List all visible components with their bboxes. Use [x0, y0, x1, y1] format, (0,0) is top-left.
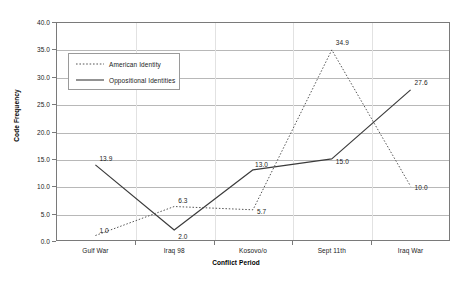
x-tick-label: Kosovo/o	[239, 247, 267, 254]
data-point-label: 5.7	[257, 208, 266, 215]
data-point-label: 27.6	[415, 79, 428, 86]
gridline	[57, 133, 449, 134]
y-tick-mark	[52, 159, 56, 160]
chart-canvas: Code Frequency 0.05.010.015.020.025.030.…	[0, 0, 472, 285]
data-point-label: 34.9	[336, 39, 349, 46]
gridline	[57, 187, 449, 188]
x-tick-label: Iraq War	[398, 247, 423, 254]
x-axis-title: Conflict Period	[0, 259, 472, 266]
y-tick-mark	[52, 77, 56, 78]
y-axis: 0.05.010.015.020.025.030.035.040.0	[0, 0, 54, 285]
legend-label: Oppositional Identities	[109, 77, 175, 84]
x-tick-mark	[135, 241, 136, 245]
data-point-label: 13.9	[99, 155, 112, 162]
y-tick-label: 35.0	[37, 46, 50, 53]
y-tick-mark	[52, 49, 56, 50]
y-tick-label: 25.0	[37, 101, 50, 108]
y-tick-mark	[52, 186, 56, 187]
gridline	[57, 50, 449, 51]
x-tick-label: Sept 11th	[318, 247, 346, 254]
data-point-label: 15.0	[336, 158, 349, 165]
chart-legend: American Identity Oppositional Identitie…	[68, 53, 180, 90]
gridline	[57, 160, 449, 161]
y-tick-mark	[52, 132, 56, 133]
data-point-label: 13.0	[255, 161, 268, 168]
data-point-label: 10.0	[415, 184, 428, 191]
data-point-label: 1.0	[99, 227, 108, 234]
y-tick-mark	[52, 214, 56, 215]
y-tick-label: 40.0	[37, 19, 50, 26]
y-tick-mark	[52, 104, 56, 105]
y-tick-label: 10.0	[37, 183, 50, 190]
data-point-label: 2.0	[178, 233, 187, 240]
y-tick-label: 5.0	[41, 210, 50, 217]
x-tick-mark	[214, 241, 215, 245]
data-point-label: 6.3	[178, 197, 187, 204]
gridline	[57, 105, 449, 106]
dotted-line-icon	[75, 60, 105, 68]
gridline	[57, 215, 449, 216]
solid-line-icon	[75, 76, 105, 84]
y-tick-label: 20.0	[37, 128, 50, 135]
category-separator	[215, 23, 216, 240]
legend-label: American Identity	[109, 61, 161, 68]
y-tick-mark	[52, 241, 56, 242]
y-tick-mark	[52, 22, 56, 23]
legend-item-oppositional-identities: Oppositional Identities	[69, 73, 181, 87]
y-tick-label: 0.0	[41, 238, 50, 245]
x-tick-mark	[371, 241, 372, 245]
x-tick-label: Gulf War	[82, 247, 108, 254]
y-tick-label: 30.0	[37, 73, 50, 80]
x-tick-mark	[292, 241, 293, 245]
x-tick-label: Iraq 98	[164, 247, 185, 254]
category-separator	[293, 23, 294, 240]
y-tick-label: 15.0	[37, 155, 50, 162]
legend-item-american-identity: American Identity	[69, 57, 181, 71]
category-separator	[372, 23, 373, 240]
